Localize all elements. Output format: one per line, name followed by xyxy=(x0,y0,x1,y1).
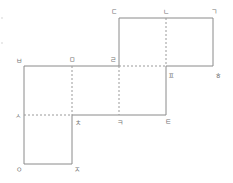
artifact-dot xyxy=(1,42,3,44)
vertex-label: ㅊ xyxy=(75,119,81,127)
vertex-label: ㅈ xyxy=(74,166,80,174)
vertex-label: ㄷ xyxy=(111,8,117,16)
vertex-label: ㅋ xyxy=(117,119,123,127)
artifact-dot xyxy=(1,17,3,19)
vertex-label: ㅌ xyxy=(165,118,171,126)
vertex-label: ㅂ xyxy=(16,57,22,65)
vertex-label: ㅍ xyxy=(168,72,174,80)
vertex-label: ㄹ xyxy=(110,56,116,64)
cube-net-diagram: ㄷ ㄴ ㄱ ㅂ ㅁ ㄹ ㅍ ㅎ ㅅ ㅊ ㅋ ㅌ ㅇ ㅈ xyxy=(0,0,233,183)
vertex-label: ㅇ xyxy=(16,166,22,174)
vertex-label: ㅅ xyxy=(15,112,21,120)
vertex-label: ㅎ xyxy=(215,72,221,80)
vertex-label: ㅁ xyxy=(69,56,75,64)
vertex-label: ㄴ xyxy=(163,8,169,16)
vertex-label: ㄱ xyxy=(211,8,217,16)
